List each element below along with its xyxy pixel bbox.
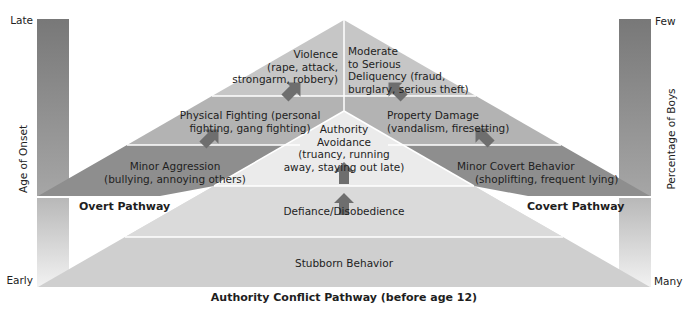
boys-few-label: Few (655, 15, 676, 28)
overt-stage-violence: Violence (rape, attack, strongarm, robbe… (225, 48, 338, 86)
covert-stage-serious-delinquency: Moderate to Serious Deliquency (fraud, b… (348, 45, 478, 95)
age-of-onset-axis-label: Age of Onset (17, 114, 29, 204)
percentage-of-boys-axis-label: Percentage of Boys (665, 84, 677, 194)
overt-pathway-label: Overt Pathway (79, 201, 170, 214)
covert-stage-minor-covert: Minor Covert Behavior (shoplifting, freq… (457, 160, 627, 185)
overt-stage-minor-aggression: Minor Aggression (bullying, annoying oth… (75, 160, 275, 185)
authority-stage-defiance: Defiance/Disobedience (244, 205, 444, 218)
covert-pathway-label: Covert Pathway (527, 201, 624, 214)
authority-stage-avoidance: Authority Avoidance (truancy, running aw… (264, 123, 424, 173)
authority-conflict-pathway-title: Authority Conflict Pathway (before age 1… (144, 292, 544, 305)
onset-late-label: Late (0, 14, 33, 27)
percentage-of-boys-bar (619, 19, 651, 287)
boys-many-label: Many (654, 275, 682, 288)
onset-early-label: Early (0, 274, 33, 287)
authority-stage-stubborn: Stubborn Behavior (244, 257, 444, 270)
age-of-onset-bar (37, 19, 69, 287)
